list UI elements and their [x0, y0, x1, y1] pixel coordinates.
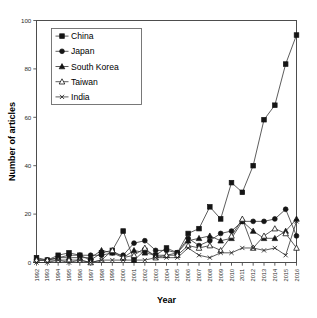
y-tick-label: 80	[24, 65, 31, 72]
x-tick-label: 1998	[99, 269, 105, 281]
legend-item-label: Japan	[71, 46, 95, 56]
data-point-marker	[197, 226, 202, 231]
legend-item-label: China	[71, 31, 94, 41]
x-tick-label: 2000	[120, 269, 126, 281]
data-point-marker	[132, 241, 137, 246]
data-point-marker	[99, 248, 105, 253]
data-point-marker	[283, 62, 288, 67]
data-point-marker	[207, 243, 213, 248]
x-tick-label: 1999	[109, 269, 115, 281]
data-point-marker	[142, 238, 147, 243]
x-tick-label: 1997	[88, 269, 94, 281]
data-point-marker	[294, 233, 299, 238]
x-tick-label: 2013	[261, 269, 267, 281]
x-axis-title: Year	[157, 295, 177, 305]
x-tick-label: 1993	[44, 269, 50, 281]
chart-container: 020406080100 199219931994199519961997199…	[0, 0, 317, 318]
x-tick-label: 2009	[218, 269, 224, 281]
x-tick-label: 2014	[272, 269, 278, 281]
legend-item-label: India	[71, 92, 90, 102]
data-point-marker	[273, 103, 278, 108]
data-point-marker	[60, 49, 65, 54]
x-tick-label: 2006	[185, 269, 191, 281]
data-point-marker	[251, 163, 256, 168]
data-point-marker	[262, 219, 267, 224]
x-tick-label: 1994	[55, 269, 61, 281]
data-point-marker	[262, 117, 267, 122]
y-axis-ticks: 020406080100	[21, 17, 37, 266]
x-axis-ticks: 1992199319941995199619971998199920002001…	[34, 263, 300, 282]
data-point-marker	[272, 217, 277, 222]
x-tick-label: 1995	[66, 269, 72, 281]
x-tick-label: 2004	[164, 269, 170, 281]
x-tick-label: 2010	[229, 269, 235, 281]
data-point-marker	[207, 233, 213, 238]
data-point-marker	[284, 253, 288, 257]
data-point-marker	[186, 231, 191, 236]
x-tick-label: 2011	[239, 269, 245, 281]
x-tick-label: 1996	[77, 269, 83, 281]
y-tick-label: 0	[28, 259, 32, 266]
chart-legend: ChinaJapanSouth KoreaTaiwanIndia	[52, 29, 142, 105]
x-tick-label: 2015	[283, 269, 289, 281]
data-point-marker	[218, 217, 223, 222]
data-point-marker	[251, 219, 256, 224]
x-tick-label: 2002	[142, 269, 148, 281]
x-tick-label: 2001	[131, 269, 137, 281]
x-tick-label: 2003	[153, 269, 159, 281]
data-point-marker	[283, 207, 288, 212]
x-tick-label: 2012	[250, 269, 256, 281]
y-tick-label: 100	[21, 17, 32, 24]
x-tick-label: 2008	[207, 269, 213, 281]
data-point-marker	[142, 245, 148, 250]
data-point-marker	[261, 233, 267, 238]
data-point-marker	[272, 226, 278, 231]
articles-by-country-line-chart: 020406080100 199219931994199519961997199…	[0, 0, 317, 318]
x-tick-label: 2007	[196, 269, 202, 281]
x-tick-label: 2005	[174, 269, 180, 281]
data-point-marker	[294, 33, 299, 38]
data-point-marker	[240, 216, 246, 221]
y-tick-label: 40	[24, 162, 31, 169]
data-point-marker	[229, 180, 234, 185]
y-tick-label: 60	[24, 114, 31, 121]
data-point-marker	[240, 190, 245, 195]
data-point-marker	[60, 34, 65, 39]
data-point-marker	[208, 205, 213, 210]
legend-item-label: South Korea	[71, 62, 119, 72]
data-point-marker	[121, 229, 126, 234]
data-point-marker	[218, 231, 223, 236]
legend-item-label: Taiwan	[71, 77, 98, 87]
data-point-marker	[294, 216, 300, 221]
y-axis-title: Number of articles	[7, 102, 17, 181]
x-tick-label: 1992	[34, 269, 40, 281]
x-tick-label: 2016	[294, 269, 300, 281]
y-tick-label: 20	[24, 210, 31, 217]
